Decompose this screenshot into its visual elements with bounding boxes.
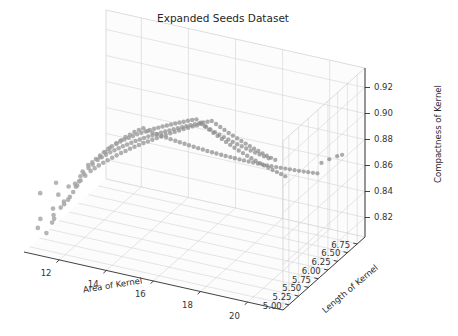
data-point — [112, 148, 117, 153]
data-point — [266, 156, 270, 160]
data-point — [101, 160, 106, 165]
data-point — [231, 133, 235, 137]
data-point — [186, 119, 190, 123]
data-point — [119, 151, 124, 156]
data-point — [137, 128, 142, 133]
data-point — [137, 143, 142, 148]
data-point — [36, 226, 41, 231]
data-point — [180, 125, 184, 129]
data-point — [275, 170, 279, 174]
chart-title: Expanded Seeds Dataset — [157, 12, 289, 24]
data-point — [190, 118, 194, 122]
z-tick-label: 0.92 — [374, 82, 393, 92]
data-point — [168, 137, 172, 141]
data-point — [51, 206, 56, 211]
x-tick-label: 12 — [41, 268, 52, 278]
data-point — [173, 121, 177, 125]
data-point — [204, 125, 208, 129]
data-point — [214, 122, 218, 126]
data-point — [262, 154, 266, 158]
data-point — [279, 166, 283, 170]
data-point — [132, 145, 137, 150]
data-point — [71, 190, 76, 195]
data-point — [116, 146, 121, 151]
data-point — [235, 136, 239, 140]
z-axis-label: Compactness of Kernel — [433, 85, 443, 183]
data-point — [164, 135, 168, 139]
data-point — [265, 163, 269, 167]
x-tick-label: 16 — [135, 289, 146, 299]
data-point — [150, 137, 155, 142]
data-point — [114, 153, 119, 158]
data-point — [78, 174, 83, 179]
data-point — [248, 148, 252, 152]
data-point — [171, 127, 175, 131]
y-tick-label: 6.00 — [302, 266, 321, 276]
data-point — [155, 132, 160, 137]
data-point — [274, 165, 278, 169]
data-point — [227, 131, 231, 135]
data-point — [269, 164, 273, 168]
data-point — [121, 144, 126, 149]
data-point — [58, 205, 63, 210]
data-point — [138, 137, 143, 142]
data-point — [114, 141, 119, 146]
data-point — [80, 169, 85, 174]
data-point — [243, 141, 247, 145]
data-point — [181, 119, 185, 123]
data-point — [257, 152, 261, 156]
data-point — [90, 162, 95, 167]
data-point — [283, 166, 287, 170]
y-tick-label: 5.25 — [273, 292, 292, 302]
figure-canvas: 12141618205.005.255.505.756.006.256.506.… — [0, 0, 458, 336]
data-point — [210, 150, 214, 154]
data-point — [125, 142, 130, 147]
data-point — [50, 220, 55, 225]
data-point — [54, 180, 59, 185]
data-point — [177, 120, 181, 124]
data-point — [306, 170, 310, 174]
data-point — [146, 134, 151, 139]
scatter3d-plot: 12141618205.005.255.505.756.006.256.506.… — [0, 0, 458, 336]
data-point — [270, 168, 274, 172]
z-tick-label: 0.86 — [374, 160, 393, 170]
data-point — [96, 163, 101, 168]
data-point — [159, 134, 163, 138]
data-point — [247, 159, 251, 163]
data-point — [260, 162, 264, 166]
x-tick-label: 18 — [182, 300, 193, 310]
data-point — [132, 130, 137, 135]
data-point — [273, 158, 277, 162]
data-point — [102, 150, 107, 155]
data-point — [228, 155, 232, 159]
data-point — [241, 151, 245, 155]
data-point — [167, 128, 171, 132]
data-point — [327, 157, 331, 161]
data-point — [283, 174, 287, 178]
y-tick-label: 6.75 — [331, 240, 350, 250]
data-point — [256, 161, 260, 165]
data-point — [44, 231, 49, 236]
data-point — [311, 171, 315, 175]
data-point — [211, 131, 215, 135]
y-tick-label: 6.50 — [321, 248, 340, 258]
data-point — [141, 126, 146, 131]
data-point — [86, 166, 91, 171]
x-tick-label: 20 — [229, 311, 240, 321]
data-point — [66, 184, 71, 189]
data-point — [196, 146, 200, 150]
data-point — [169, 122, 173, 126]
data-point — [129, 140, 134, 145]
data-point — [94, 157, 99, 162]
data-point — [218, 125, 222, 129]
data-point — [128, 147, 133, 152]
data-point — [223, 154, 227, 158]
data-point — [191, 145, 195, 149]
data-point — [248, 144, 252, 148]
data-point — [288, 167, 292, 171]
data-point — [51, 213, 56, 218]
data-point — [228, 143, 232, 147]
data-point — [297, 169, 301, 173]
data-point — [165, 123, 169, 127]
data-point — [142, 136, 147, 141]
